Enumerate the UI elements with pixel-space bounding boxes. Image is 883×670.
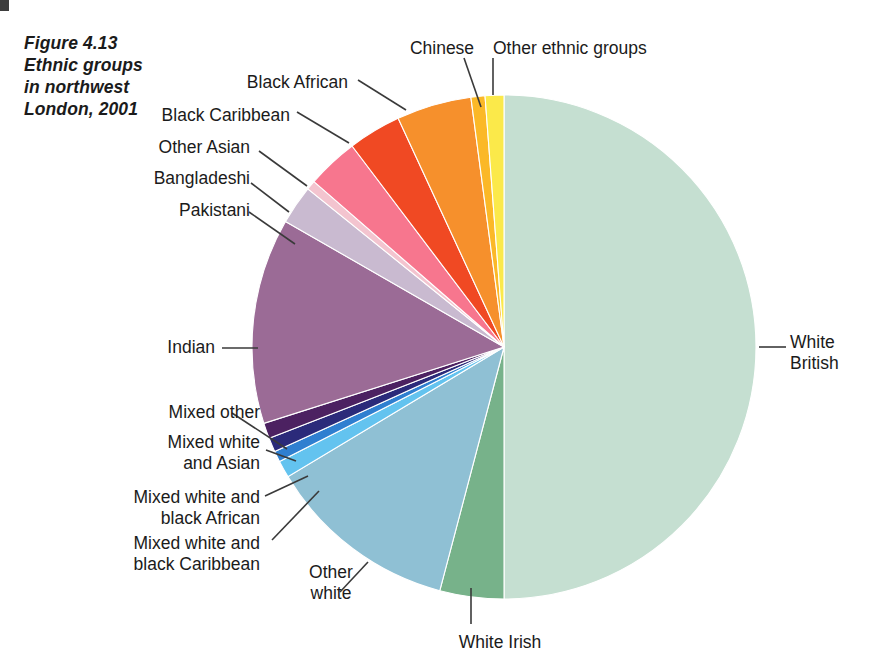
leader-mixed-white-black-caribbean <box>272 491 319 540</box>
leader-black-caribbean <box>297 112 349 143</box>
label-other-white: Other white <box>286 562 376 604</box>
leader-bangladeshi <box>251 183 289 212</box>
figure-canvas: Figure 4.13 Ethnic groups in northwest L… <box>0 0 883 670</box>
label-mixed-other: Mixed other <box>60 402 260 423</box>
label-other-ethnic-groups: Other ethnic groups <box>493 38 713 59</box>
label-white-british: White British <box>790 332 880 374</box>
label-mixed-white-black-african: Mixed white and black African <box>10 487 260 529</box>
label-mixed-white-asian: Mixed white and Asian <box>60 432 260 474</box>
pie-slice-group <box>252 95 756 599</box>
leader-black-african <box>358 80 406 110</box>
label-white-irish: White Irish <box>435 632 565 653</box>
label-indian: Indian <box>60 337 215 358</box>
label-pakistani: Pakistani <box>60 200 250 221</box>
leader-other-asian <box>259 151 307 186</box>
label-black-african: Black African <box>118 72 348 93</box>
label-mixed-white-black-caribbean: Mixed white and black Caribbean <box>10 533 260 575</box>
label-bangladeshi: Bangladeshi <box>60 168 250 189</box>
label-black-caribbean: Black Caribbean <box>60 105 290 126</box>
label-chinese: Chinese <box>392 38 492 59</box>
pie-slice[interactable] <box>504 95 756 599</box>
label-other-asian: Other Asian <box>60 137 250 158</box>
